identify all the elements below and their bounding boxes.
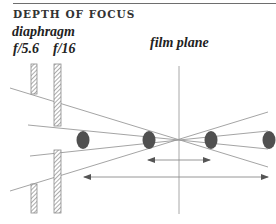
diaphragm-f5-6 <box>31 64 37 213</box>
rays-wide-aperture <box>10 88 268 191</box>
ellipse-1 <box>77 131 90 149</box>
diaphragm-f16 <box>54 64 61 213</box>
ellipse-3 <box>205 131 218 149</box>
depth-of-focus-diagram <box>0 0 276 224</box>
ellipse-2 <box>143 131 156 149</box>
ellipse-4 <box>263 131 276 149</box>
